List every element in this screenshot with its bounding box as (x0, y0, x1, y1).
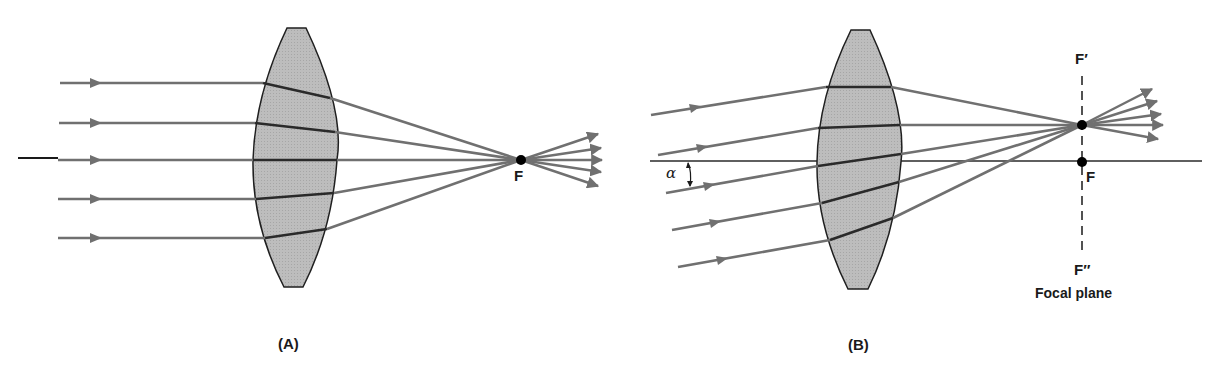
converging-rays-a (327, 98, 521, 229)
ray-arrows-b (689, 104, 728, 265)
focal-double-prime-label: F″ (1074, 261, 1090, 278)
convex-lens-a (253, 28, 338, 287)
diverging-rays-b (1082, 89, 1163, 139)
focal-point-f-prime (1077, 120, 1087, 130)
focal-point-b (1077, 157, 1087, 167)
caption-a: (A) (278, 335, 299, 352)
incoming-rays-a (58, 83, 265, 238)
diagram-canvas (0, 0, 1221, 372)
focal-label-b: F (1086, 168, 1095, 185)
diverging-rays-a (521, 134, 602, 186)
focal-label-a: F (514, 167, 523, 184)
caption-b: (B) (848, 336, 869, 353)
incoming-rays-b (651, 87, 830, 267)
focal-plane-label: Focal plane (1035, 285, 1112, 301)
focal-point-a (516, 155, 526, 165)
converging-rays-b (891, 87, 1082, 218)
ray-arrows-a (90, 78, 102, 243)
panel-a (18, 28, 602, 287)
angle-arrow-down-icon (687, 181, 693, 187)
focal-prime-label: F′ (1075, 50, 1088, 67)
angle-alpha-label: α (666, 164, 676, 182)
panel-b (650, 30, 1202, 289)
